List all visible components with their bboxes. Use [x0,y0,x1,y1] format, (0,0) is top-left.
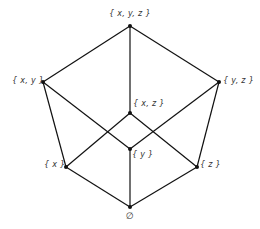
edge-yz-y [130,82,219,149]
label-z: { z } [200,160,221,169]
label-yz: { y, z } [223,76,254,85]
edge-x-empty [66,167,130,207]
label-xy: { x, y } [12,76,44,85]
diagram-edges [0,0,260,229]
node-xz [128,111,132,115]
edge-xy-x [43,82,66,167]
node-z [195,165,199,169]
label-empty-set: ∅ [126,211,134,221]
edge-yz-z [197,82,219,167]
label-x: { x } [44,160,66,169]
node-empty [128,205,132,209]
edge-xz-x [66,113,130,167]
label-xyz: { x, y, z } [109,9,151,18]
edge-xyz-yz [130,26,219,82]
label-xz: { x, z } [133,99,165,108]
hasse-diagram: { x, y, z } { x, y } { y, z } { x, z } {… [0,0,260,229]
node-yz [217,80,221,84]
edge-xyz-xy [43,26,130,82]
label-y: { y } [132,150,154,159]
node-xyz [128,24,132,28]
edge-xy-y [43,82,130,149]
edge-z-empty [130,167,197,207]
